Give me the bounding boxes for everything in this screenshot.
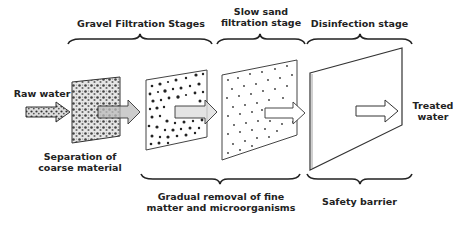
label-slow-sand-line2: filtration stage bbox=[215, 17, 307, 28]
panel-slow-sand bbox=[222, 60, 305, 160]
panel-coarse-gravel bbox=[72, 77, 140, 143]
label-gradual-line1: Gradual removal of fine bbox=[140, 191, 302, 202]
label-separation-line2: coarse material bbox=[30, 162, 130, 173]
label-separation-line1: Separation of bbox=[30, 151, 130, 162]
top-brace-slow-sand bbox=[217, 34, 305, 44]
label-treated-line2: water bbox=[408, 111, 458, 122]
label-treated-line1: Treated bbox=[408, 100, 458, 111]
label-slow-sand-line1: Slow sand bbox=[215, 6, 307, 17]
label-separation-coarse: Separation of coarse material bbox=[30, 151, 130, 173]
panel-disinfection bbox=[310, 48, 402, 170]
label-disinfection: Disinfection stage bbox=[307, 18, 412, 29]
top-brace-disinfection bbox=[307, 34, 412, 44]
label-slow-sand: Slow sand filtration stage bbox=[215, 6, 307, 28]
bottom-brace-safety bbox=[307, 174, 412, 184]
label-treated-water: Treated water bbox=[408, 100, 458, 122]
label-gravel-filtration: Gravel Filtration Stages bbox=[70, 18, 212, 29]
bottom-brace-coarse bbox=[141, 174, 300, 184]
top-brace-gravel bbox=[68, 34, 212, 44]
label-gradual-line2: matter and microorganisms bbox=[140, 202, 302, 213]
panel-fine-gravel bbox=[146, 70, 217, 150]
raw-water-arrow bbox=[26, 102, 70, 122]
label-raw-water: Raw water bbox=[12, 88, 72, 99]
label-safety-barrier: Safety barrier bbox=[307, 196, 412, 207]
label-gradual-removal: Gradual removal of fine matter and micro… bbox=[140, 191, 302, 213]
